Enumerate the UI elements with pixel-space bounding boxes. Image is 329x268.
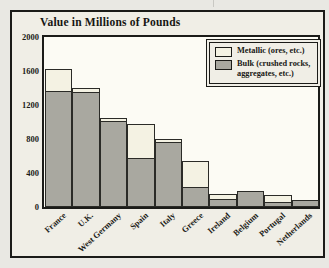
bar-ireland bbox=[209, 194, 236, 207]
bar-italy bbox=[155, 139, 182, 207]
bulk-segment bbox=[209, 199, 236, 207]
legend-label-metallic: Metallic (ores, etc.) bbox=[237, 46, 305, 56]
page-artifact-line bbox=[213, 0, 214, 7]
bulk-segment bbox=[155, 142, 182, 207]
bar-west-germany bbox=[100, 118, 127, 207]
figure-box: Value in Millions of Pounds 040080012001… bbox=[10, 10, 325, 258]
bar-netherlands bbox=[292, 200, 319, 207]
y-tick-label: 1200 bbox=[9, 101, 39, 110]
y-tick-label: 2000 bbox=[9, 33, 39, 42]
bulk-segment bbox=[45, 91, 72, 207]
y-tick-label: 400 bbox=[9, 169, 39, 178]
chart-title: Value in Millions of Pounds bbox=[40, 16, 180, 28]
metallic-segment bbox=[45, 69, 72, 92]
bulk-segment bbox=[127, 158, 154, 207]
metallic-swatch-icon bbox=[215, 47, 232, 57]
bar-spain bbox=[127, 124, 154, 207]
legend-item-bulk: Bulk (crushed rocks, aggregates, etc.) bbox=[215, 59, 313, 79]
scanned-page-background: Value in Millions of Pounds 040080012001… bbox=[0, 0, 329, 268]
legend-item-metallic: Metallic (ores, etc.) bbox=[215, 46, 313, 57]
bar-france bbox=[45, 69, 72, 207]
y-tick-label: 1600 bbox=[9, 67, 39, 76]
bulk-segment bbox=[72, 92, 99, 207]
y-tick-label: 0 bbox=[9, 203, 39, 212]
legend-box: Metallic (ores, etc.) Bulk (crushed rock… bbox=[206, 39, 321, 87]
bar-belgium bbox=[237, 191, 264, 207]
bulk-segment bbox=[292, 200, 319, 207]
metallic-segment bbox=[127, 124, 154, 159]
bulk-segment bbox=[182, 187, 209, 207]
bulk-segment bbox=[264, 202, 291, 207]
bar-u-k- bbox=[72, 88, 99, 207]
bar-portugal bbox=[264, 195, 291, 207]
legend-label-bulk: Bulk (crushed rocks, aggregates, etc.) bbox=[237, 59, 313, 79]
bar-greece bbox=[182, 161, 209, 207]
bulk-segment bbox=[100, 121, 127, 207]
metallic-segment bbox=[182, 161, 209, 187]
bulk-segment bbox=[237, 191, 264, 207]
y-tick-label: 800 bbox=[9, 135, 39, 144]
bulk-swatch-icon bbox=[215, 60, 232, 70]
legend-inner-frame: Metallic (ores, etc.) Bulk (crushed rock… bbox=[209, 42, 318, 84]
